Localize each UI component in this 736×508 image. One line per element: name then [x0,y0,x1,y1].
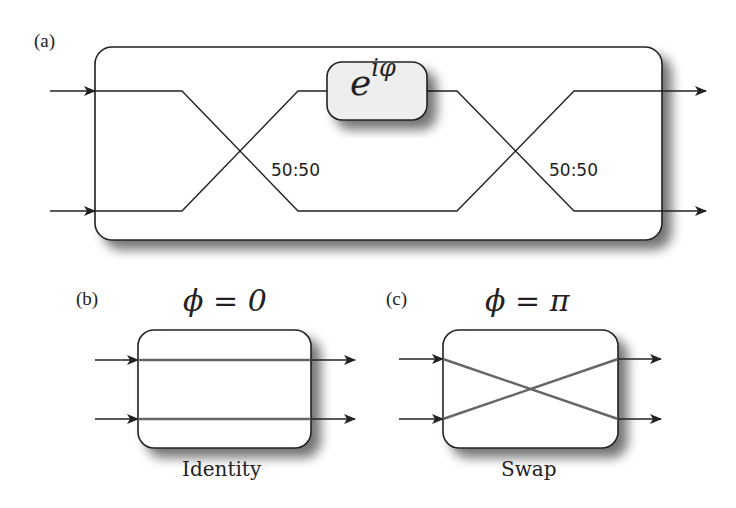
beam-splitter-1-ratio: 50:50 [271,160,320,180]
phase-exponent: iφ [371,54,395,82]
panel-b-condition: ϕ = 0 [183,283,267,318]
phase-base: e [350,62,371,103]
panel-c-condition: ϕ = π [485,283,569,318]
beam-splitter-2-ratio: 50:50 [549,160,598,180]
panel-b-label: (b) [76,288,98,310]
panel-c-label: (c) [386,288,407,310]
panel-c-caption: Swap [501,457,557,481]
panel-c [399,330,661,448]
panel-b-caption: Identity [182,457,261,481]
panel-a-label: (a) [34,30,55,52]
phase-shifter-label: eiφ [350,60,396,103]
panel-b [95,330,355,448]
identity-box [138,330,311,448]
